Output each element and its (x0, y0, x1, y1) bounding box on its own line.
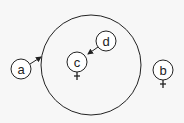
node-b: b (153, 60, 173, 88)
plus-icon (74, 72, 80, 80)
node-d: d (96, 31, 116, 51)
node-d-label: d (102, 34, 109, 49)
node-a: a (11, 59, 31, 79)
node-c: c (67, 52, 87, 80)
container-circle (41, 15, 141, 115)
arrow-d-to-c (88, 47, 98, 54)
arrow-a-to-container (30, 57, 41, 64)
node-b-label: b (159, 63, 166, 78)
node-c-label: c (74, 55, 81, 70)
diagram-canvas: a c d b (0, 0, 184, 123)
node-a-label: a (17, 62, 25, 77)
plus-icon (160, 80, 166, 88)
